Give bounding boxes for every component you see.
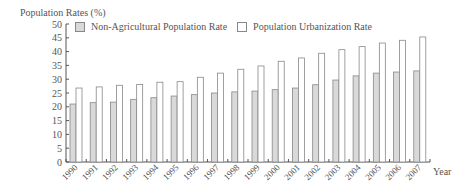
bar-non-agricultural: [212, 93, 218, 162]
bar-non-agricultural: [292, 88, 298, 162]
bar-non-agricultural: [90, 103, 96, 162]
bar-urbanization: [137, 84, 143, 162]
x-tick-label: 1998: [222, 162, 242, 182]
bar-non-agricultural: [252, 91, 258, 162]
bar-non-agricultural: [272, 90, 278, 162]
x-tick-label: 2000: [262, 162, 282, 182]
x-tick-label: 1997: [201, 162, 221, 182]
x-axis-title: Year: [433, 166, 451, 177]
x-tick-label: 1991: [80, 162, 100, 182]
x-tick-label: 1992: [100, 162, 120, 182]
x-tick-label: 2003: [323, 162, 343, 182]
bar-non-agricultural: [171, 96, 177, 162]
bar-urbanization: [319, 53, 325, 162]
x-tick-label: 2006: [383, 162, 403, 182]
bar-urbanization: [298, 58, 304, 162]
bar-urbanization: [400, 40, 406, 162]
bar-urbanization: [379, 43, 385, 162]
y-tick-label: 15: [52, 115, 62, 126]
x-tick-label: 2007: [404, 162, 424, 182]
x-tick-label: 2005: [363, 162, 383, 182]
bar-urbanization: [197, 77, 203, 162]
bar-non-agricultural: [232, 92, 238, 162]
bar-urbanization: [278, 61, 284, 162]
bar-non-agricultural: [131, 99, 137, 162]
y-tick-label: 25: [52, 88, 62, 99]
bar-urbanization: [218, 73, 224, 162]
bar-urbanization: [238, 69, 244, 162]
bar-urbanization: [96, 87, 102, 162]
bar-urbanization: [420, 37, 426, 162]
x-tick-label: 1995: [161, 162, 181, 182]
y-tick-label: 5: [57, 143, 62, 154]
x-tick-label: 1996: [181, 162, 201, 182]
bar-non-agricultural: [394, 72, 400, 162]
bar-non-agricultural: [353, 76, 359, 162]
y-tick-label: 20: [52, 101, 62, 112]
bar-non-agricultural: [151, 98, 157, 162]
bar-urbanization: [157, 82, 163, 162]
bar-urbanization: [116, 85, 122, 162]
y-tick-label: 10: [52, 129, 62, 140]
bar-non-agricultural: [70, 104, 76, 162]
bar-urbanization: [76, 88, 82, 162]
bar-non-agricultural: [313, 85, 319, 162]
bar-urbanization: [258, 66, 264, 162]
x-tick-label: 2004: [343, 162, 363, 182]
y-tick-label: 45: [52, 32, 62, 43]
bar-chart-plot: 0510152025303540455019901991199219931994…: [0, 0, 469, 188]
x-tick-label: 1990: [60, 162, 80, 182]
y-tick-label: 30: [52, 74, 62, 85]
bar-urbanization: [177, 82, 183, 162]
bar-non-agricultural: [110, 102, 116, 162]
y-tick-label: 0: [57, 157, 62, 168]
bar-non-agricultural: [191, 95, 197, 162]
bar-urbanization: [359, 47, 365, 162]
x-tick-label: 1993: [120, 162, 140, 182]
x-tick-label: 2001: [282, 162, 302, 182]
x-tick-label: 1994: [141, 162, 161, 182]
bar-non-agricultural: [333, 80, 339, 162]
y-tick-label: 50: [52, 19, 62, 30]
x-tick-label: 1999: [242, 162, 262, 182]
x-tick-label: 2002: [302, 162, 322, 182]
bar-urbanization: [339, 50, 345, 162]
bar-non-agricultural: [373, 73, 379, 162]
bar-non-agricultural: [414, 71, 420, 162]
y-tick-label: 40: [52, 46, 62, 57]
y-tick-label: 35: [52, 60, 62, 71]
